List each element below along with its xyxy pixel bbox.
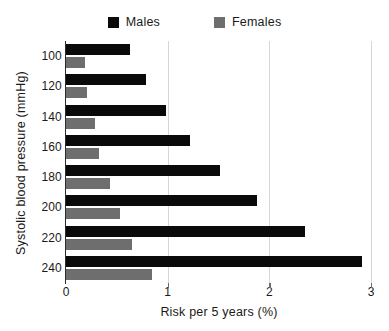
bar-chart-figure: Males Females 100120140160180200220240 0… (0, 0, 389, 331)
bar-females-120 (66, 87, 87, 98)
bar-males-180 (66, 165, 220, 176)
bar-group-220 (66, 223, 372, 253)
x-axis-ticks: 0123 (66, 286, 372, 302)
bar-males-160 (66, 135, 190, 146)
y-axis-line (65, 41, 66, 284)
y-tick-label-220: 220 (22, 232, 62, 244)
bar-females-180 (66, 178, 110, 189)
y-tick-label-140: 140 (22, 111, 62, 123)
y-tick-label-120: 120 (22, 80, 62, 92)
x-axis-title: Risk per 5 years (%) (66, 305, 372, 319)
bar-males-240 (66, 256, 362, 267)
y-tick-label-160: 160 (22, 141, 62, 153)
bar-females-160 (66, 148, 99, 159)
chart-legend: Males Females (0, 12, 389, 32)
y-axis-title: Systolic blood pressure (mmHg) (14, 58, 28, 268)
legend-label-females: Females (232, 16, 281, 29)
bar-males-100 (66, 44, 130, 55)
y-tick-label-180: 180 (22, 171, 62, 183)
x-tick-mark-1 (168, 283, 169, 288)
bar-females-140 (66, 118, 95, 129)
x-tick-mark-2 (269, 283, 270, 288)
bar-group-240 (66, 253, 372, 283)
legend-label-males: Males (126, 16, 160, 29)
bar-group-120 (66, 71, 372, 101)
bar-females-200 (66, 208, 120, 219)
bar-group-180 (66, 162, 372, 192)
bar-group-140 (66, 102, 372, 132)
bar-females-100 (66, 57, 85, 68)
bar-females-240 (66, 269, 152, 280)
legend-entry-males: Males (108, 16, 160, 29)
bar-group-100 (66, 41, 372, 71)
legend-swatch-females-icon (214, 17, 225, 28)
bar-males-120 (66, 74, 146, 85)
x-tick-label-0: 0 (63, 286, 70, 298)
x-tick-mark-3 (371, 283, 372, 288)
legend-swatch-males-icon (108, 17, 119, 28)
bar-group-160 (66, 132, 372, 162)
y-tick-label-200: 200 (22, 201, 62, 213)
bar-males-220 (66, 226, 305, 237)
bar-group-200 (66, 192, 372, 222)
plot-area (66, 41, 372, 283)
y-tick-label-100: 100 (22, 50, 62, 62)
bar-females-220 (66, 239, 132, 250)
bar-males-140 (66, 105, 166, 116)
legend-entry-females: Females (214, 16, 281, 29)
y-tick-label-240: 240 (22, 262, 62, 274)
bar-males-200 (66, 195, 257, 206)
